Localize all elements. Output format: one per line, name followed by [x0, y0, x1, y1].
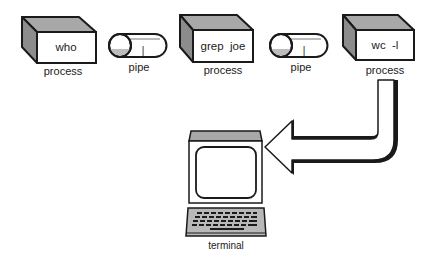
caption-terminal: terminal — [208, 240, 244, 251]
pipe-2 — [270, 34, 328, 57]
caption-pipe-2: pipe — [291, 61, 312, 73]
caption-process-3: process — [366, 64, 405, 76]
command-grep: grep joe — [201, 40, 246, 52]
caption-pipe-1: pipe — [129, 61, 150, 73]
caption-process-2: process — [204, 64, 243, 76]
process-box-who — [22, 17, 96, 63]
output-arrow — [265, 80, 398, 175]
pipe-1 — [109, 34, 167, 57]
process-box-grep — [180, 15, 253, 62]
process-box-wc — [343, 15, 414, 60]
command-wc: wc -l — [372, 39, 399, 51]
caption-process-1: process — [44, 65, 83, 77]
terminal-keyboard — [186, 208, 266, 236]
command-who: who — [55, 41, 76, 53]
terminal-monitor — [189, 131, 262, 203]
pipe-symbol-2: | — [303, 45, 306, 56]
pipe-symbol-1: | — [142, 45, 145, 56]
